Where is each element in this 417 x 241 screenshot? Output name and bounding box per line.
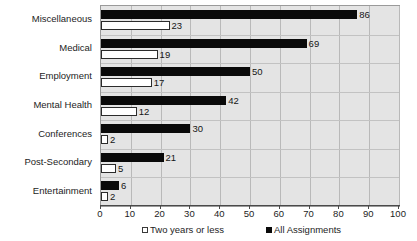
category-label-post-secondary: Post-Secondary	[0, 157, 92, 167]
bar-value-label: 2	[108, 192, 115, 201]
open-square-icon	[142, 227, 148, 233]
x-axis-tick-label: 40	[204, 208, 234, 219]
bar-all-assignments[interactable]	[101, 10, 357, 19]
bar-two-years-or-less[interactable]	[101, 78, 152, 87]
bar-all-assignments[interactable]	[101, 96, 226, 105]
legend-label: Two years or less	[150, 224, 224, 235]
category-band: 8623	[101, 6, 399, 35]
category-band: 302	[101, 120, 399, 149]
category-label-medical: Medical	[0, 43, 92, 53]
bar-value-label: 42	[226, 96, 239, 105]
category-band: 5017	[101, 63, 399, 92]
bar-value-label: 2	[108, 135, 115, 144]
category-band: 6919	[101, 35, 399, 64]
bar-all-assignments[interactable]	[101, 153, 164, 162]
x-axis-tick-label: 10	[115, 208, 145, 219]
bar-all-assignments[interactable]	[101, 39, 307, 48]
category-label-mental-health: Mental Health	[0, 100, 92, 110]
bar-two-years-or-less[interactable]	[101, 135, 108, 144]
bar-value-label: 30	[190, 124, 203, 133]
category-label-miscellaneous: Miscellaneous	[0, 14, 92, 24]
bar-two-years-or-less[interactable]	[101, 21, 170, 30]
bar-value-label: 5	[116, 164, 123, 173]
bar-all-assignments[interactable]	[101, 67, 250, 76]
bar-value-label: 17	[152, 78, 165, 87]
x-axis-tick-label: 70	[294, 208, 324, 219]
x-axis-tick-label: 0	[85, 208, 115, 219]
x-axis-tick-label: 30	[174, 208, 204, 219]
bar-all-assignments[interactable]	[101, 124, 190, 133]
legend-item-two-years-or-less[interactable]: Two years or less	[142, 224, 224, 235]
bar-value-label: 19	[158, 50, 171, 59]
x-axis-tick-label: 80	[323, 208, 353, 219]
x-axis-tick-label: 20	[145, 208, 175, 219]
category-axis-labels: MiscellaneousMedicalEmploymentMental Hea…	[0, 5, 96, 205]
bar-value-label: 6	[119, 181, 126, 190]
x-axis-tick-label: 100	[383, 208, 413, 219]
category-band: 4212	[101, 92, 399, 121]
gridline	[399, 6, 400, 206]
category-label-conferences: Conferences	[0, 129, 92, 139]
category-band: 62	[101, 177, 399, 206]
x-axis-tick-label: 90	[353, 208, 383, 219]
legend-label: All Assignments	[274, 224, 341, 235]
bar-chart: MiscellaneousMedicalEmploymentMental Hea…	[0, 0, 417, 241]
bar-two-years-or-less[interactable]	[101, 164, 116, 173]
bar-all-assignments[interactable]	[101, 181, 119, 190]
filled-square-icon	[266, 227, 272, 233]
bar-value-label: 69	[307, 39, 320, 48]
x-axis-line	[100, 205, 400, 206]
bar-two-years-or-less[interactable]	[101, 192, 108, 201]
legend-item-all-assignments[interactable]: All Assignments	[266, 224, 341, 235]
category-label-entertainment: Entertainment	[0, 186, 92, 196]
chart-legend: Two years or lessAll Assignments	[100, 224, 400, 238]
bar-value-label: 50	[250, 67, 263, 76]
category-band: 215	[101, 149, 399, 178]
bar-value-label: 21	[164, 153, 177, 162]
bar-value-label: 12	[137, 107, 150, 116]
category-label-employment: Employment	[0, 71, 92, 81]
bar-two-years-or-less[interactable]	[101, 107, 137, 116]
plot-area: 862369195017421230221562	[100, 5, 400, 207]
x-axis-tick-label: 60	[264, 208, 294, 219]
bar-two-years-or-less[interactable]	[101, 50, 158, 59]
bar-value-label: 23	[170, 21, 183, 30]
x-axis-tick-label: 50	[234, 208, 264, 219]
bar-value-label: 86	[357, 10, 370, 19]
